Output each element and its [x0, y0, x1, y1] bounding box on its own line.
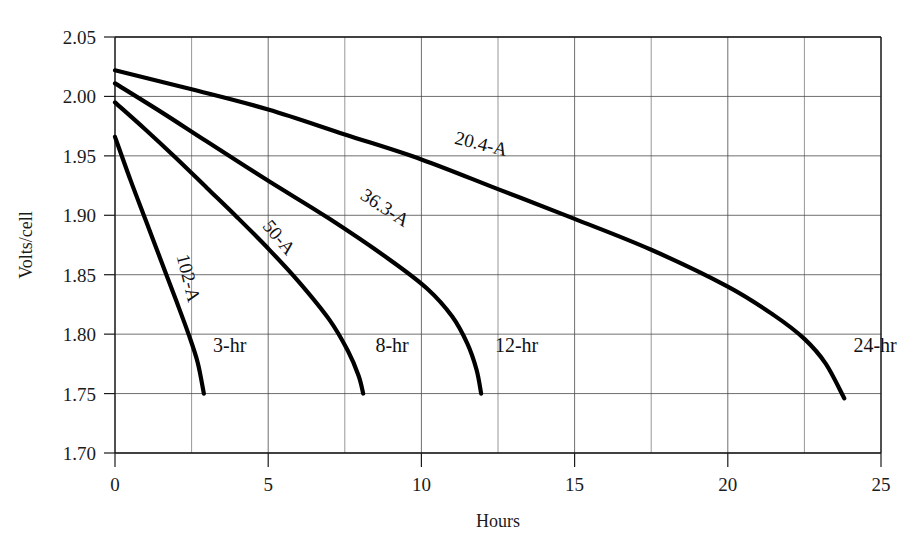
x-tick-label: 15	[565, 474, 584, 495]
x-axis-title: Hours	[476, 511, 520, 531]
x-tick-label: 20	[718, 474, 737, 495]
y-tick-label: 1.95	[63, 146, 96, 167]
discharge-curve-chart: 1.701.751.801.851.901.952.002.05 0510152…	[0, 0, 913, 550]
y-tick-label: 1.80	[63, 324, 96, 345]
curve-duration-label: 8-hr	[375, 334, 409, 356]
curve-duration-label: 12-hr	[495, 334, 539, 356]
y-axis-title: Volts/cell	[16, 211, 36, 279]
y-tick-label: 1.70	[63, 443, 96, 464]
y-tick-label: 1.90	[63, 205, 96, 226]
x-tick-label: 10	[412, 474, 431, 495]
chart-container: 1.701.751.801.851.901.952.002.05 0510152…	[0, 0, 913, 550]
y-tick-label: 1.75	[63, 384, 96, 405]
x-tick-label: 25	[872, 474, 891, 495]
curve-duration-label: 24-hr	[853, 334, 897, 356]
y-tick-label: 1.85	[63, 265, 96, 286]
x-tick-label: 0	[110, 474, 120, 495]
curve-duration-label: 3-hr	[213, 334, 247, 356]
x-tick-label: 5	[263, 474, 273, 495]
y-tick-label: 2.00	[63, 86, 96, 107]
y-tick-label: 2.05	[63, 27, 96, 48]
